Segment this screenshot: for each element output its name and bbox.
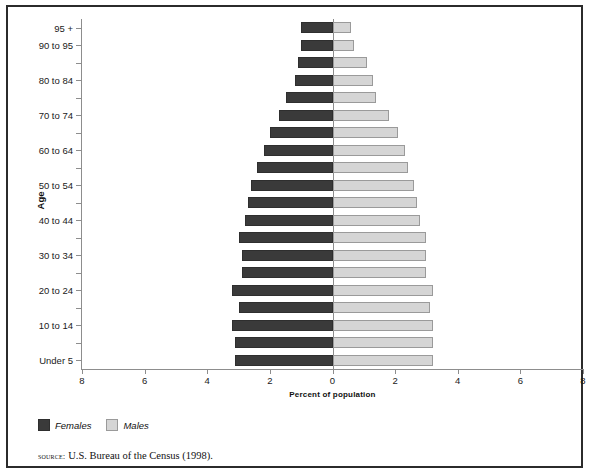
x-axis-tick	[82, 369, 83, 374]
x-axis-label: 2	[267, 375, 272, 386]
x-axis-tick	[145, 369, 146, 374]
y-axis-label: 30 to 34	[39, 250, 73, 261]
y-axis-label: 90 to 95	[39, 40, 73, 51]
x-axis-label: 4	[455, 375, 460, 386]
source-note: source: U.S. Bureau of the Census (1998)…	[38, 450, 213, 461]
x-axis-tick	[270, 369, 271, 374]
figure-frame: Age Under 510 to 1420 to 2430 to 3440 to…	[6, 5, 583, 468]
y-axis-label: 95 +	[54, 22, 73, 33]
y-axis-label: 60 to 64	[39, 145, 73, 156]
legend-label: Females	[55, 420, 91, 431]
y-axis-label: 50 to 54	[39, 180, 73, 191]
x-axis-label: 6	[518, 375, 523, 386]
x-axis-title: Percent of population	[82, 390, 583, 399]
legend-swatch-females	[38, 419, 50, 431]
chart-legend: FemalesMales	[38, 419, 157, 431]
y-axis-label: 10 to 14	[39, 320, 73, 331]
x-axis-tick	[458, 369, 459, 374]
y-axis-label: 80 to 84	[39, 75, 73, 86]
legend-item-females: Females	[38, 419, 91, 431]
x-axis-tick	[207, 369, 208, 374]
legend-swatch-males	[106, 419, 118, 431]
y-axis-label: 20 to 24	[39, 285, 73, 296]
plot-area: Under 510 to 1420 to 2430 to 3440 to 445…	[81, 19, 583, 370]
y-axis-label: Under 5	[39, 355, 73, 366]
x-axis-label: 6	[142, 375, 147, 386]
x-axis-tick	[333, 369, 334, 374]
x-axis-tick	[520, 369, 521, 374]
x-axis-label: 0	[330, 375, 335, 386]
source-label: source:	[38, 451, 66, 461]
x-axis-label: 8	[79, 375, 84, 386]
source-text: U.S. Bureau of the Census (1998).	[68, 450, 213, 461]
x-axis-tick	[583, 369, 584, 374]
x-axis-label: 2	[392, 375, 397, 386]
x-axis-label: 4	[205, 375, 210, 386]
legend-label: Males	[123, 420, 148, 431]
y-axis-label: 40 to 44	[39, 215, 73, 226]
x-axis-label: 8	[580, 375, 585, 386]
y-axis-label: 70 to 74	[39, 110, 73, 121]
y-axis-tick-labels: Under 510 to 1420 to 2430 to 3440 to 445…	[82, 19, 583, 369]
x-axis-tick	[395, 369, 396, 374]
legend-item-males: Males	[106, 419, 148, 431]
y-axis-title: Age	[35, 192, 46, 210]
